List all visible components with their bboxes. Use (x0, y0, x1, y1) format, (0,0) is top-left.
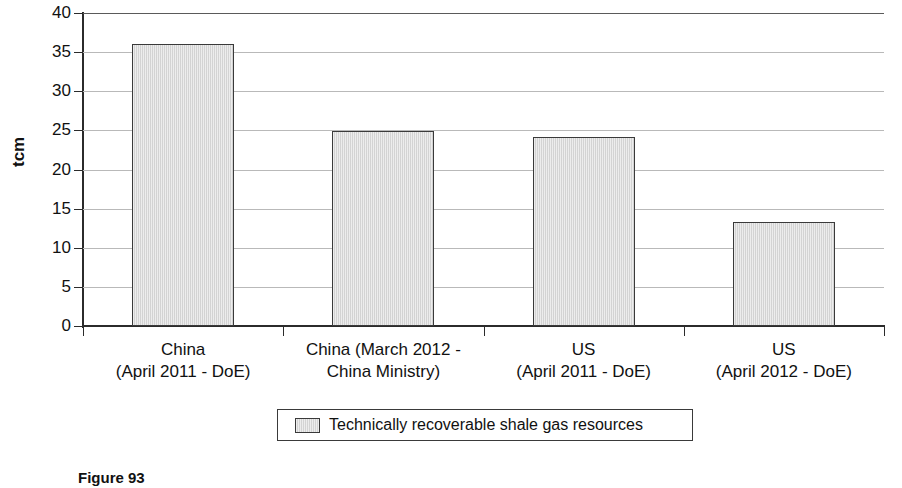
y-tick-label: 25 (8, 121, 71, 138)
x-category-label: US(April 2012 - DoE) (684, 339, 884, 384)
x-category-label-line2: China Ministry) (283, 361, 483, 383)
bar (533, 137, 635, 326)
y-tick-label: 35 (8, 43, 71, 60)
x-category-label-line2: (April 2012 - DoE) (684, 361, 884, 383)
figure-caption: Figure 93 (78, 469, 145, 486)
y-tick-mark (74, 170, 83, 171)
chart-legend: Technically recoverable shale gas resour… (277, 409, 693, 441)
x-tick-mark (884, 326, 885, 336)
gridline (83, 13, 884, 14)
y-tick-mark (74, 52, 83, 53)
bar (132, 44, 234, 326)
x-category-label: US(April 2011 - DoE) (484, 339, 684, 384)
x-tick-mark (684, 326, 685, 336)
x-category-label-line2: (April 2011 - DoE) (83, 361, 283, 383)
x-category-label: China (March 2012 -China Ministry) (283, 339, 483, 384)
legend-label: Technically recoverable shale gas resour… (329, 416, 643, 434)
y-tick-label: 30 (8, 82, 71, 99)
x-category-label-line1: China (March 2012 - (306, 340, 461, 359)
x-category-label-line1: US (772, 340, 796, 359)
y-tick-mark (74, 130, 83, 131)
y-tick-label: 15 (8, 200, 71, 217)
x-tick-mark (484, 326, 485, 336)
y-tick-label: 40 (8, 4, 71, 21)
y-tick-mark (74, 91, 83, 92)
y-tick-label: 5 (8, 278, 71, 295)
y-tick-label: 0 (8, 317, 71, 334)
y-tick-label: 10 (8, 239, 71, 256)
x-category-label-line2: (April 2011 - DoE) (484, 361, 684, 383)
figure-container: tcm 4035302520151050 China(April 2011 - … (0, 0, 902, 488)
x-tick-mark (283, 326, 284, 336)
x-tick-mark (83, 326, 84, 336)
y-tick-mark (74, 209, 83, 210)
y-tick-mark (74, 13, 83, 14)
bar (733, 222, 835, 326)
x-category-label-line1: US (572, 340, 596, 359)
y-tick-label: 20 (8, 161, 71, 178)
y-tick-mark (74, 326, 83, 327)
legend-swatch-icon (295, 418, 320, 433)
x-category-label-line1: China (161, 340, 205, 359)
y-tick-mark (74, 248, 83, 249)
x-category-label: China(April 2011 - DoE) (83, 339, 283, 384)
y-tick-mark (74, 287, 83, 288)
bar (332, 131, 434, 326)
plot-area (83, 13, 884, 326)
